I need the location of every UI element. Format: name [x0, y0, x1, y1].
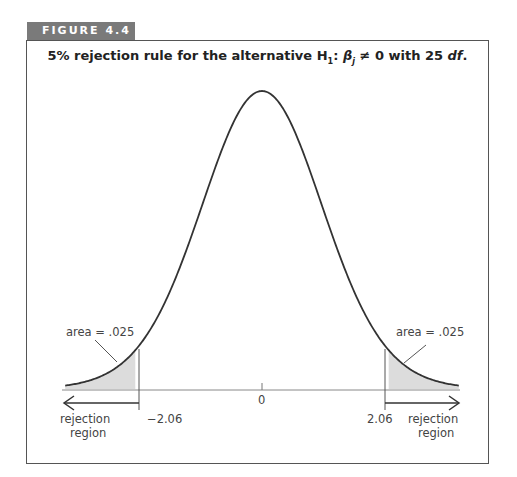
left-region-label-2: region — [70, 426, 106, 440]
right-region-label-1: rejection — [408, 412, 458, 426]
left-area-leader — [95, 340, 117, 362]
density-curve — [65, 91, 459, 386]
left-critical-label: −2.06 — [147, 412, 182, 426]
right-region-label-2: region — [418, 426, 454, 440]
right-critical-label: 2.06 — [367, 412, 393, 426]
left-region-label-1: rejection — [60, 412, 110, 426]
right-area-leader — [404, 345, 426, 363]
left-area-label: area = .025 — [66, 325, 134, 339]
right-area-label: area = .025 — [396, 325, 464, 339]
center-label: 0 — [258, 393, 265, 407]
t-distribution-chart: area = .025 area = .025 −2.06 0 2.06 rej… — [0, 0, 517, 477]
